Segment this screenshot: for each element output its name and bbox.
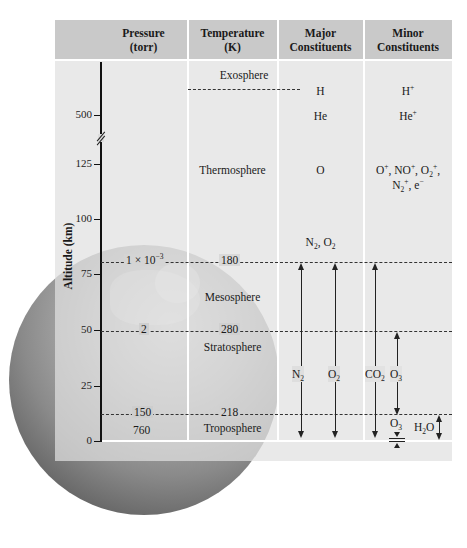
tick-mark <box>94 274 100 275</box>
minor-thermo-line2: N2+, e− <box>364 179 452 191</box>
header-pressure: Pressure (torr) <box>100 20 187 60</box>
header-title: Minor <box>392 26 423 40</box>
minor-thermo-line1: O+, NO+, O2+, <box>364 164 452 176</box>
formula-no: , NO <box>389 164 411 176</box>
formula-o: O <box>323 236 331 248</box>
arrow-down-icon <box>394 432 400 437</box>
header-major: Major Constituents <box>278 20 363 60</box>
temperature-stratopause: 280 <box>219 323 240 335</box>
tick-mark <box>94 330 100 331</box>
temperature-tropopause: 218 <box>219 406 240 418</box>
formula-co: CO <box>365 368 381 380</box>
tick-mark <box>94 386 100 387</box>
arrow-down-icon <box>394 408 400 415</box>
header-unit: (K) <box>224 40 241 54</box>
formula-o: O <box>426 421 434 433</box>
formula-o2: , O <box>415 164 429 176</box>
header-divider <box>55 59 452 61</box>
minor-exo-he-ion: He+ <box>364 110 452 122</box>
layer-troposphere: Troposphere <box>188 422 277 434</box>
o3-trop-label: O3 <box>390 417 402 429</box>
o2-range-line <box>335 268 336 431</box>
n2-range-line <box>301 268 302 431</box>
header-unit: (torr) <box>130 40 157 54</box>
pressure-value: 1 × 10 <box>126 254 156 266</box>
formula-he: He <box>399 110 412 122</box>
arrow-down-icon <box>372 431 378 438</box>
formula-n: N <box>306 236 314 248</box>
arrow-down-icon <box>332 431 338 438</box>
o2-label: O2 <box>328 366 340 382</box>
header-minor: Minor Constituents <box>364 20 452 60</box>
formula-electron: , e <box>409 179 420 191</box>
layer-exosphere: Exosphere <box>188 69 300 81</box>
header-title: Temperature <box>201 26 265 40</box>
n2-label: N2 <box>292 366 304 382</box>
tick-mark <box>94 441 100 442</box>
co2-label: CO2 <box>365 366 385 382</box>
arrow-down-icon <box>436 433 442 440</box>
layer-stratosphere: Stratosphere <box>188 341 277 353</box>
tick-label: 500 <box>56 108 92 120</box>
pressure-surface: 760 <box>133 424 150 436</box>
layer-mesosphere: Mesosphere <box>188 291 277 303</box>
arrow-up-icon <box>394 443 400 448</box>
tick-label: 25 <box>56 379 92 391</box>
tick-label: 125 <box>56 157 92 169</box>
formula-h: H <box>402 85 410 97</box>
tick-mark <box>94 219 100 220</box>
o3-layer-bar <box>389 438 405 439</box>
o3-layer-bar <box>389 441 405 442</box>
tick-mark <box>94 164 100 165</box>
major-upper-n2-o2: N2, O2 <box>278 236 363 248</box>
header-temperature: Temperature (K) <box>188 20 277 60</box>
header-title: Pressure <box>122 26 164 40</box>
temperature-mesopause: 180 <box>219 254 240 266</box>
h2o-range-line <box>439 420 440 434</box>
pressure-mesopause: 1 × 10−3 <box>124 254 165 266</box>
co2-range-line <box>375 268 376 431</box>
pressure-exponent: −3 <box>156 252 164 261</box>
tick-label: 0 <box>56 434 92 446</box>
arrow-down-icon <box>298 431 304 438</box>
major-exo-h: H <box>278 85 363 97</box>
tick-mark <box>94 115 100 116</box>
column-divider <box>187 20 189 442</box>
tick-label: 50 <box>56 323 92 335</box>
h2o-label: H2O <box>414 421 434 433</box>
o3-strat-label: O3 <box>390 366 402 382</box>
minor-exo-h-ion: H+ <box>364 85 452 97</box>
major-exo-he: He <box>278 110 363 122</box>
header-unit: Constituents <box>290 40 352 54</box>
column-divider <box>277 20 279 442</box>
altitude-axis <box>100 62 102 442</box>
pressure-stratopause: 2 <box>139 323 149 335</box>
pressure-tropopause: 150 <box>132 406 153 418</box>
layer-thermosphere: Thermosphere <box>188 164 277 176</box>
header-title: Major <box>305 26 336 40</box>
formula-n2: N <box>392 179 400 191</box>
header-unit: Constituents <box>377 40 439 54</box>
major-thermo-o: O <box>278 164 363 176</box>
y-axis-label: Altitude (km) <box>62 201 74 311</box>
separator: , <box>437 164 440 176</box>
